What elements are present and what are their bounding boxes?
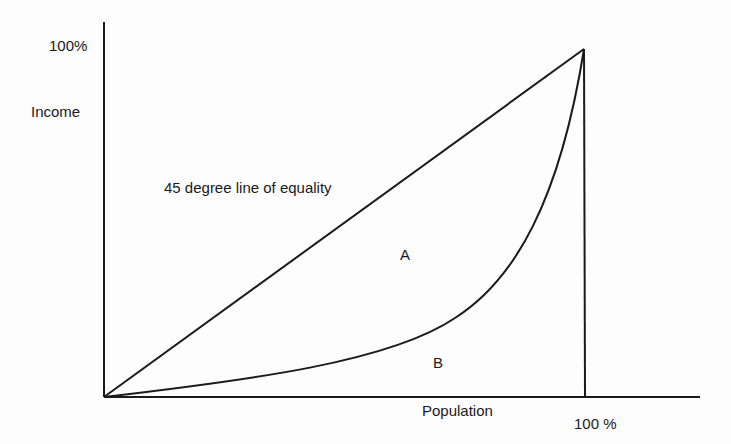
diagram-graphic bbox=[0, 0, 731, 444]
region-a-label: A bbox=[400, 247, 410, 262]
population-100-vertical-line bbox=[584, 49, 585, 397]
y-axis-max-label: 100% bbox=[49, 38, 87, 53]
x-axis-max-label: 100 % bbox=[574, 416, 617, 431]
region-b-label: B bbox=[433, 355, 443, 370]
equality-line-label: 45 degree line of equality bbox=[164, 180, 332, 195]
lorenz-curve-diagram: 100% Income 45 degree line of equality A… bbox=[0, 0, 731, 444]
line-of-equality bbox=[104, 49, 584, 397]
y-axis-label: Income bbox=[31, 104, 80, 119]
x-axis-label: Population bbox=[422, 403, 493, 418]
